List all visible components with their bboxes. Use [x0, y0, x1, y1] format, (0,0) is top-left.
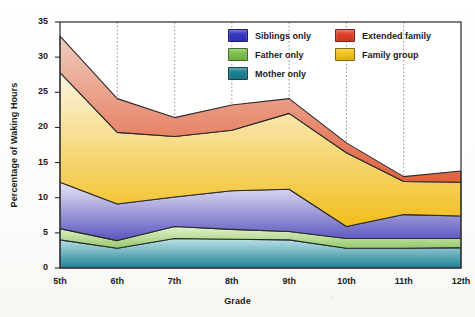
- x-tick-label: 11th: [384, 276, 424, 286]
- chart-figure: Percentage of Waking Hours Grade 0510152…: [0, 0, 475, 317]
- legend-swatch-icon: [335, 48, 355, 61]
- legend-item-family-group[interactable]: Family group: [335, 48, 419, 61]
- y-tick-label: 30: [22, 51, 48, 61]
- y-tick-label: 20: [22, 121, 48, 131]
- x-tick-label: 6th: [97, 276, 137, 286]
- legend-label: Siblings only: [255, 31, 311, 41]
- legend-label: Family group: [362, 50, 419, 60]
- y-axis-ticks: [55, 22, 60, 268]
- y-tick-label: 5: [22, 227, 48, 237]
- legend-item-siblings-only[interactable]: Siblings only: [228, 29, 311, 42]
- x-tick-label: 9th: [269, 276, 309, 286]
- x-tick-label: 10th: [326, 276, 366, 286]
- legend-label: Father only: [255, 50, 304, 60]
- y-tick-label: 15: [22, 157, 48, 167]
- legend-swatch-icon: [228, 48, 248, 61]
- y-tick-label: 10: [22, 192, 48, 202]
- y-tick-label: 35: [22, 16, 48, 26]
- legend-item-mother-only[interactable]: Mother only: [228, 67, 306, 80]
- legend-item-father-only[interactable]: Father only: [228, 48, 304, 61]
- y-axis-title: Percentage of Waking Hours: [9, 45, 19, 245]
- legend-swatch-icon: [228, 67, 248, 80]
- y-tick-label: 0: [22, 262, 48, 272]
- legend-swatch-icon: [335, 29, 355, 42]
- y-tick-label: 25: [22, 86, 48, 96]
- x-tick-label: 12th: [441, 276, 475, 286]
- x-tick-label: 8th: [212, 276, 252, 286]
- x-tick-label: 5th: [40, 276, 80, 286]
- legend-swatch-icon: [228, 29, 248, 42]
- x-axis-title: Grade: [0, 296, 475, 306]
- legend-label: Extended family: [362, 31, 431, 41]
- legend-label: Mother only: [255, 69, 306, 79]
- x-tick-label: 7th: [155, 276, 195, 286]
- legend-item-extended-family[interactable]: Extended family: [335, 29, 431, 42]
